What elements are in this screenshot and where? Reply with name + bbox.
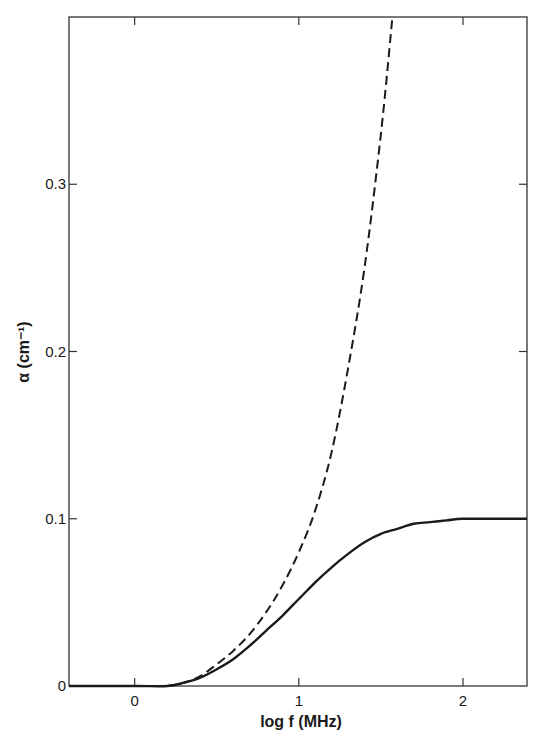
plot-frame (69, 17, 527, 686)
x-tick-label: 0 (130, 692, 138, 709)
chart: 012 00.10.20.3 log f (MHz) α (cm⁻¹) (0, 0, 543, 743)
x-tick-label: 1 (295, 692, 303, 709)
x-axis-label: log f (MHz) (260, 713, 342, 730)
y-tick-label: 0 (58, 677, 66, 694)
x-axis-ticks: 012 (130, 17, 467, 709)
series-solid-line (69, 519, 527, 687)
data-series (69, 17, 527, 686)
y-axis-label: α (cm⁻¹) (15, 321, 32, 382)
x-tick-label: 2 (459, 692, 467, 709)
y-axis-ticks: 00.10.20.3 (45, 175, 527, 694)
y-tick-label: 0.2 (45, 343, 66, 360)
y-tick-label: 0.3 (45, 175, 66, 192)
y-tick-label: 0.1 (45, 510, 66, 527)
series-dashed-line (168, 17, 393, 686)
